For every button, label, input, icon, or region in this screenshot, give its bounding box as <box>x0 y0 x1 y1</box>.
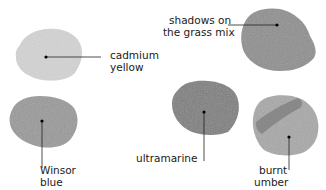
winsor-blue-label: Winsor blue <box>40 164 76 188</box>
ultramarine-label: ultramarine <box>136 152 197 164</box>
label-line-1: ultramarine <box>136 152 197 164</box>
cadmium-yellow-label: cadmium yellow <box>110 49 159 73</box>
shadows-grass-mix-swatch <box>241 8 315 71</box>
label-line-2: the grass mix <box>163 26 235 38</box>
label-line-1: Winsor <box>40 164 76 176</box>
winsor-blue-swatch <box>10 96 78 148</box>
burnt-umber-dot <box>287 135 290 138</box>
ultramarine-swatch <box>172 81 239 135</box>
label-line-1: shadows on <box>163 14 235 26</box>
label-line-2: blue <box>40 176 76 188</box>
burnt-umber-label: burnt umber <box>254 164 288 188</box>
shadows-grass-mix-label: shadows on the grass mix <box>163 14 235 38</box>
cadmium-yellow-dot <box>44 55 47 58</box>
shadows-grass-mix-dot <box>275 23 278 26</box>
label-line-2: yellow <box>110 61 159 73</box>
cadmium-yellow-swatch <box>16 29 82 81</box>
label-line-1: burnt <box>254 164 288 176</box>
ultramarine-dot <box>202 110 205 113</box>
winsor-blue-dot <box>40 119 43 122</box>
label-line-2: umber <box>254 176 288 188</box>
label-line-1: cadmium <box>110 49 159 61</box>
